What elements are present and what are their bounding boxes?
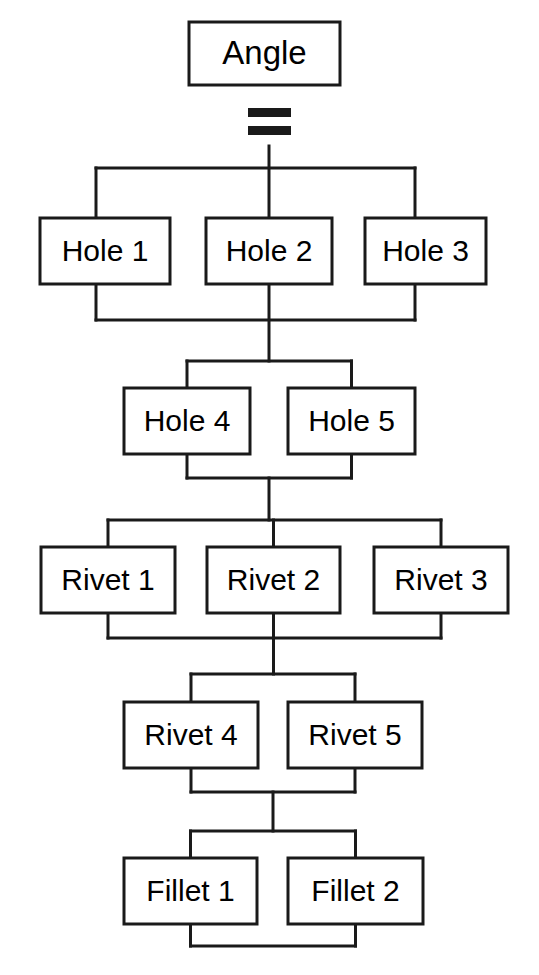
node-rivet-2-label: Rivet 2 [227,563,320,596]
connector-rivets-upper-bottom [108,613,441,674]
connector-holes-upper-top [96,146,415,218]
feature-tree-diagram: Angle Hole 1 [0,0,539,975]
node-hole-2-label: Hole 2 [226,234,313,267]
node-hole-5[interactable]: Hole 5 [288,388,415,454]
connector-holes-lower-top [187,361,352,388]
node-hole-3-label: Hole 3 [382,234,469,267]
node-rivet-3-label: Rivet 3 [394,563,487,596]
node-rivet-3[interactable]: Rivet 3 [374,547,508,613]
connector-rivets-upper-top [108,520,441,547]
equals-bar-bottom [248,126,291,135]
node-rivet-4-label: Rivet 4 [144,718,237,751]
connector-holes-lower-bottom [187,454,352,520]
connector-holes-upper-bottom [96,284,415,361]
connector-fillets-top [191,831,356,858]
node-fillet-1-label: Fillet 1 [146,874,234,907]
connector-fillets-bottom [191,924,356,946]
node-fillet-2[interactable]: Fillet 2 [288,858,423,924]
connector-rivets-lower-bottom [191,768,355,831]
node-hole-2[interactable]: Hole 2 [206,218,332,284]
node-hole-4-label: Hole 4 [144,404,231,437]
node-hole-5-label: Hole 5 [308,404,395,437]
node-fillet-1[interactable]: Fillet 1 [124,858,257,924]
node-angle[interactable]: Angle [189,22,340,85]
diagram-canvas: Angle Hole 1 [0,0,539,975]
node-hole-4[interactable]: Hole 4 [124,388,250,454]
node-rivet-1[interactable]: Rivet 1 [41,547,175,613]
equals-symbol [248,108,291,135]
node-rivet-5-label: Rivet 5 [308,718,401,751]
node-rivet-1-label: Rivet 1 [61,563,154,596]
connector-rivets-lower-top [191,674,355,702]
node-hole-1-label: Hole 1 [62,234,149,267]
node-hole-1[interactable]: Hole 1 [40,218,170,284]
node-hole-3[interactable]: Hole 3 [365,218,486,284]
equals-bar-top [248,108,291,117]
node-rivet-4[interactable]: Rivet 4 [124,702,258,768]
node-rivet-5[interactable]: Rivet 5 [288,702,422,768]
node-rivet-2[interactable]: Rivet 2 [207,547,340,613]
node-angle-label: Angle [222,34,306,71]
node-fillet-2-label: Fillet 2 [311,874,399,907]
